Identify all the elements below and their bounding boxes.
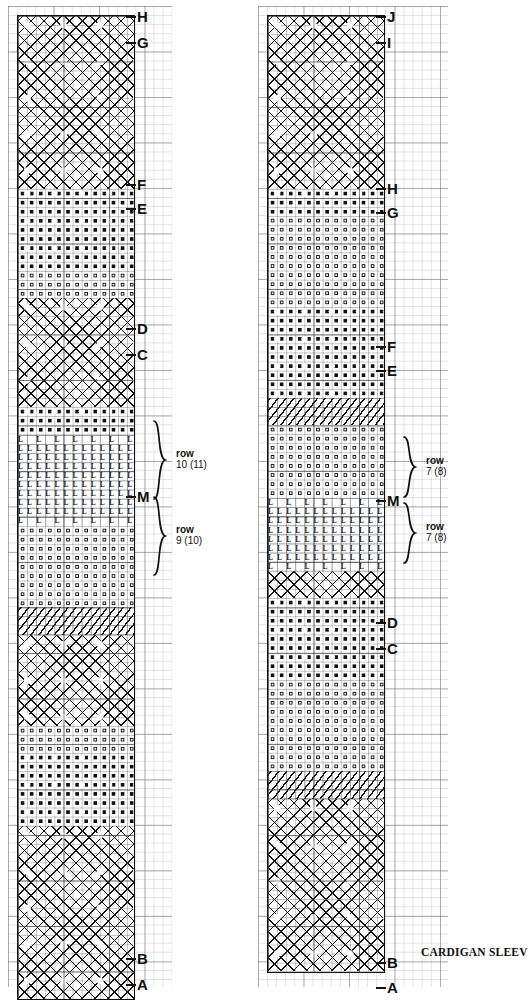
right-sleeve-chart: L L L L L L LLLLLLLLLLLLLLLLLLLLLLLLLLLL… [258, 6, 498, 987]
band-slip-slash [268, 771, 384, 798]
band-bobble [268, 189, 384, 216]
leader-line [376, 42, 386, 44]
cell-grid [18, 726, 134, 753]
chart-marker-a: A [376, 981, 398, 995]
band-twist-L: L L L L L L LLLLLLLLLLLLLLLLLLLLLLLLLLLL… [268, 498, 384, 571]
chart-marker-h: H [126, 10, 148, 24]
band-cable-diamond [18, 826, 134, 999]
marker-letter: I [387, 36, 391, 50]
leader-line [126, 984, 136, 986]
cell-grid [268, 680, 384, 771]
row-callout: row9 (10) [176, 524, 202, 546]
chart-marker-c: C [376, 642, 398, 656]
cell-grid [268, 425, 384, 498]
chart-marker-b: B [376, 956, 398, 970]
marker-letter: M [387, 494, 400, 508]
marker-letter: C [137, 348, 148, 362]
row-bracket [403, 502, 417, 564]
band-bobble [268, 307, 384, 398]
cell-grid [18, 189, 134, 271]
row-callout-count: 7 (8) [426, 466, 447, 477]
chart-marker-d: D [376, 616, 398, 630]
leader-line [376, 962, 386, 964]
leader-line [126, 208, 136, 210]
chart-marker-m: M [126, 490, 150, 504]
row-callout: row10 (11) [176, 448, 207, 470]
leader-line [376, 987, 386, 989]
band-eyelet [18, 271, 134, 298]
leader-line [126, 328, 136, 330]
leader-line [376, 16, 386, 18]
band-cable-diamond [268, 799, 384, 972]
band-eyelet [268, 680, 384, 771]
band-bobble [18, 407, 134, 434]
marker-letter: J [387, 10, 395, 24]
row-callout: row7 (8) [426, 455, 447, 477]
row-callout-count: 10 (11) [176, 459, 207, 470]
marker-letter: C [387, 642, 398, 656]
leader-line [126, 16, 136, 18]
cell-grid [268, 16, 384, 189]
cell-grid [18, 753, 134, 826]
chart-marker-e: E [376, 364, 397, 378]
chart-caption: CARDIGAN SLEEV [421, 946, 528, 958]
chart-marker-f: F [126, 178, 146, 192]
cell-grid [18, 526, 134, 608]
leader-line [376, 370, 386, 372]
cell-grid [268, 571, 384, 598]
cell-grid [268, 189, 384, 216]
band-bobble [268, 598, 384, 680]
marker-letter: F [137, 178, 146, 192]
chart-marker-i: I [376, 36, 391, 50]
marker-letter: E [387, 364, 397, 378]
cell-grid [268, 771, 384, 798]
cell-grid [268, 598, 384, 680]
left-sleeve-chart: L L L L L L LLLLLLLLLLLLLLLLLLLLLLLLLLLL… [8, 6, 248, 987]
band-slip-slash [18, 607, 134, 634]
right-pattern-swatch: L L L L L L LLLLLLLLLLLLLLLLLLLLLLLLLLLL… [267, 15, 385, 973]
marker-letter: G [137, 36, 149, 50]
row-callout-word: row [426, 521, 447, 532]
band-twist-L: L L L L L L LLLLLLLLLLLLLLLLLLLLLLLLLLLL… [18, 435, 134, 526]
leader-line [126, 42, 136, 44]
leader-line [126, 184, 136, 186]
marker-letter: E [137, 202, 147, 216]
marker-letter: H [137, 10, 148, 24]
band-eyelet [18, 526, 134, 608]
chart-marker-a: A [126, 978, 148, 992]
row-callout-word: row [176, 524, 202, 535]
cell-grid [268, 799, 384, 972]
row-bracket [153, 496, 167, 576]
band-cable-thin [268, 571, 384, 598]
cell-grid [18, 298, 134, 407]
marker-letter: B [387, 956, 398, 970]
cell-grid [18, 607, 134, 634]
chart-marker-g: G [376, 206, 399, 220]
band-bobble [18, 753, 134, 826]
marker-letter: M [137, 490, 150, 504]
band-cable-diamond [18, 635, 134, 726]
leader-line [376, 622, 386, 624]
row-callout: row7 (8) [426, 521, 447, 543]
chart-marker-j: J [376, 10, 395, 24]
leader-line [126, 958, 136, 960]
chart-marker-f: F [376, 340, 396, 354]
cell-grid [268, 216, 384, 307]
marker-letter: F [387, 340, 396, 354]
chart-marker-h: H [376, 182, 398, 196]
leader-line [376, 188, 386, 190]
band-eyelet [268, 216, 384, 307]
band-cable-diamond [18, 298, 134, 407]
row-callout-word: row [426, 455, 447, 466]
cell-grid [18, 271, 134, 298]
band-cable-diamond [268, 16, 384, 189]
cell-grid [18, 16, 134, 189]
band-bobble [18, 189, 134, 271]
left-pattern-swatch: L L L L L L LLLLLLLLLLLLLLLLLLLLLLLLLLLL… [17, 15, 135, 1000]
leader-line [376, 212, 386, 214]
leader-line [376, 500, 386, 502]
marker-letter: G [387, 206, 399, 220]
chart-marker-g: G [126, 36, 149, 50]
band-cable-diamond [18, 16, 134, 189]
row-callout-count: 7 (8) [426, 532, 447, 543]
